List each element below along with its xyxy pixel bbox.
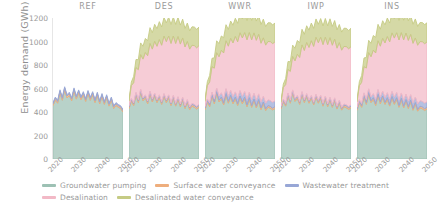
chart-legend: Groundwater pumpingSurface water conveya… — [42, 181, 425, 202]
stacked-area-plot — [357, 18, 427, 159]
stacked-area-plot — [281, 18, 351, 159]
y-axis-tick: 200 — [34, 131, 48, 140]
legend-swatch-icon — [42, 196, 56, 199]
y-axis-tick: 1000 — [29, 37, 48, 46]
stacked-area-plot — [129, 18, 199, 159]
legend-label: Desalinated water conveyance — [135, 193, 254, 202]
legend-item[interactable]: Surface water conveyance — [155, 181, 275, 190]
y-axis-tick: 400 — [34, 108, 48, 117]
y-axis-tick-labels: 020040060080010001200 — [22, 18, 52, 158]
stacked-area-plot — [53, 18, 123, 159]
facet-panels: REF2020203020402050DES2020203020402050WW… — [53, 18, 427, 159]
y-axis-tick: 600 — [34, 84, 48, 93]
legend-item[interactable]: Wastewater treatment — [285, 181, 389, 190]
facet-title: WWR — [205, 2, 275, 11]
facet-panel-des: DES2020203020402050 — [129, 18, 199, 159]
legend-label: Desalination — [60, 193, 108, 202]
legend-label: Surface water conveyance — [173, 181, 275, 190]
facet-title: IWP — [281, 2, 351, 11]
facet-title: INS — [357, 2, 427, 11]
y-axis-tick: 1200 — [29, 14, 48, 23]
legend-swatch-icon — [117, 196, 131, 199]
legend-swatch-icon — [42, 184, 56, 187]
legend-swatch-icon — [285, 184, 299, 187]
facet-panel-wwr: WWR2020203020402050 — [205, 18, 275, 159]
facet-panel-iwp: IWP2020203020402050 — [281, 18, 351, 159]
legend-item[interactable]: Groundwater pumping — [42, 181, 146, 190]
x-axis-tick: 2020 — [47, 156, 65, 174]
facet-title: REF — [53, 2, 123, 11]
legend-item[interactable]: Desalinated water conveyance — [117, 193, 254, 202]
legend-label: Wastewater treatment — [303, 181, 389, 190]
facet-title: DES — [129, 2, 199, 11]
stacked-area-plot — [205, 18, 275, 159]
y-axis-tick: 0 — [43, 155, 48, 164]
legend-label: Groundwater pumping — [60, 181, 146, 190]
facet-panel-ins: INS2020203020402050 — [357, 18, 427, 159]
y-axis-tick: 800 — [34, 61, 48, 70]
facet-panel-ref: REF2020203020402050 — [53, 18, 123, 159]
legend-item[interactable]: Desalination — [42, 193, 108, 202]
legend-swatch-icon — [155, 184, 169, 187]
